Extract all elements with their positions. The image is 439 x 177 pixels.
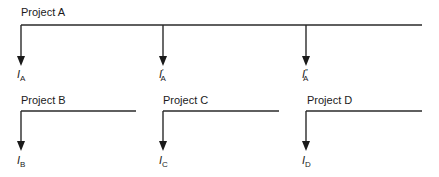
- outflow-label: I′A: [159, 67, 167, 83]
- project-c-label: Project C: [163, 94, 208, 106]
- project-a-outflow-3: I″A: [302, 25, 310, 83]
- arrow-down-icon: [159, 56, 167, 66]
- project-a: Project A IA I′A I″A: [17, 6, 422, 83]
- project-a-outflow-2: I′A: [159, 25, 167, 83]
- project-c: Project C IC: [159, 94, 279, 169]
- outflow-label: I″A: [302, 67, 309, 83]
- project-a-label: Project A: [21, 6, 66, 18]
- arrow-down-icon: [302, 141, 310, 151]
- project-b: Project B IB: [17, 94, 136, 169]
- cash-flow-diagram: Project A IA I′A I″A Project B IB Projec…: [0, 0, 439, 177]
- project-a-outflow-1: IA: [17, 25, 26, 83]
- arrow-down-icon: [159, 141, 167, 151]
- outflow-label: IA: [17, 68, 26, 83]
- outflow-label: ID: [302, 154, 311, 169]
- arrow-down-icon: [302, 56, 310, 66]
- project-b-label: Project B: [21, 94, 66, 106]
- project-d: Project D ID: [302, 94, 422, 169]
- arrow-down-icon: [17, 56, 25, 66]
- project-d-label: Project D: [307, 94, 352, 106]
- outflow-label: IB: [17, 154, 25, 169]
- outflow-label: IC: [159, 154, 168, 169]
- arrow-down-icon: [17, 141, 25, 151]
